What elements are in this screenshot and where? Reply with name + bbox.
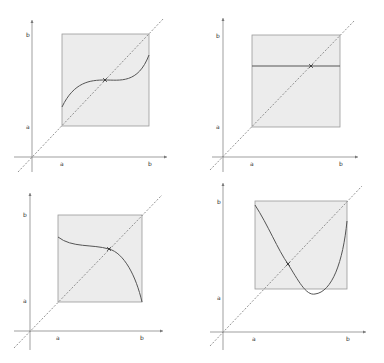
y-axis-label-a: a [216, 123, 220, 130]
x-axis-label-b: b [140, 334, 144, 341]
x-axis-label-b: b [339, 160, 343, 167]
y-axis-arrow-icon [222, 183, 225, 186]
x-axis-label-a: a [60, 160, 64, 167]
x-axis-arrow-icon [363, 331, 366, 334]
x-axis-label-a: a [250, 160, 254, 167]
y-axis-label-a: a [26, 123, 30, 130]
domain-square [58, 215, 142, 302]
y-axis-label-b: b [23, 211, 27, 218]
panel-bottom-left: abab [14, 193, 163, 350]
y-axis-label-a: a [217, 294, 221, 301]
y-axis-label-a: a [23, 297, 27, 304]
y-axis-label-b: b [26, 31, 30, 38]
y-axis-label-b: b [217, 198, 221, 205]
x-axis-label-a: a [252, 335, 256, 342]
x-axis-label-b: b [346, 335, 350, 342]
y-axis-arrow-icon [29, 193, 32, 196]
y-axis-arrow-icon [222, 18, 225, 21]
fixed-point-figure: abababababababab [0, 0, 384, 363]
y-axis-label-b: b [216, 32, 220, 39]
y-axis-arrow-icon [31, 20, 34, 23]
x-axis-arrow-icon [355, 156, 358, 159]
panel-top-left: abab [14, 18, 167, 172]
x-axis-arrow-icon [164, 156, 167, 159]
panel-top-right: abab [210, 18, 358, 172]
panel-bottom-right: abab [210, 183, 366, 350]
domain-square [255, 201, 347, 289]
x-axis-arrow-icon [160, 330, 163, 333]
x-axis-label-a: a [56, 334, 60, 341]
x-axis-label-b: b [148, 160, 152, 167]
